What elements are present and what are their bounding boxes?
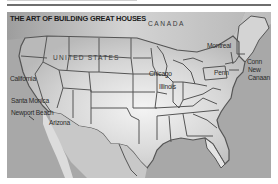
- label-newport-beach: Newport Beach: [11, 109, 53, 116]
- label-canada: CANADA: [148, 20, 185, 27]
- top-divider: [7, 4, 271, 6]
- label-united-states: UNITED STATES: [53, 54, 120, 61]
- label-illinois: Illinois: [159, 83, 176, 90]
- label-arizona: Arizona: [49, 119, 70, 126]
- map-graphic: [7, 12, 271, 178]
- label-penn: Penn: [214, 69, 229, 76]
- label-chicago: Chicago: [149, 70, 172, 77]
- map-title: THE ART OF BUILDING GREAT HOUSES: [10, 14, 146, 23]
- us-map: THE ART OF BUILDING GREAT HOUSES CANADA …: [7, 12, 271, 178]
- label-santa-monica: Santa Monica: [11, 97, 49, 104]
- label-montreal: Montreal: [207, 42, 231, 49]
- label-california: California: [10, 75, 36, 82]
- label-new-canaan-line1: New: [248, 66, 261, 73]
- label-new-canaan-line2: Canaan: [248, 74, 270, 81]
- top-thin-rule: [7, 0, 137, 1]
- label-conn: Conn: [247, 58, 262, 65]
